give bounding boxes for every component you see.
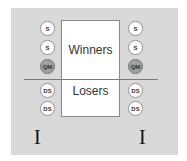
right-marker: I <box>139 126 146 149</box>
left-marker: I <box>34 126 41 149</box>
left-node-s-2: S <box>40 40 55 55</box>
left-node-s-1: S <box>40 21 55 36</box>
losers-label: Losers <box>62 84 119 98</box>
right-node-s-2: S <box>128 40 143 55</box>
right-node-qm: QM <box>128 59 143 74</box>
right-node-ds-1: DS <box>128 83 143 98</box>
left-node-ds-1: DS <box>40 83 55 98</box>
left-node-qm: QM <box>40 59 55 74</box>
divider-line <box>24 79 158 80</box>
center-box: Winners Losers <box>61 20 120 117</box>
right-node-s-1: S <box>128 21 143 36</box>
left-node-ds-2: DS <box>40 101 55 116</box>
winners-label: Winners <box>62 43 119 57</box>
right-node-ds-2: DS <box>128 101 143 116</box>
